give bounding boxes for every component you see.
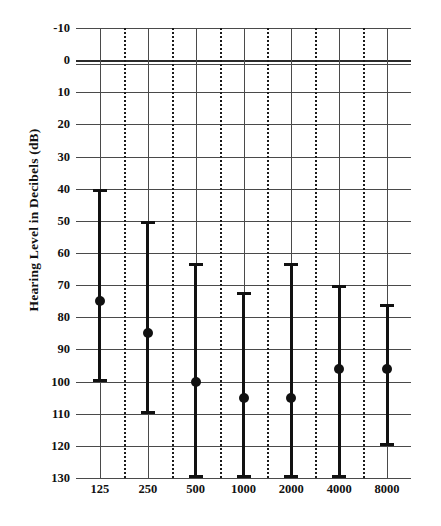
- y-tick-label-10: 10: [24, 85, 70, 100]
- x-tick-label-8000: 8000: [352, 482, 422, 497]
- whisker-cap-lower: [93, 379, 107, 382]
- marker-dot: [191, 377, 201, 387]
- whisker-line: [338, 285, 341, 478]
- y-tick-label-40: 40: [24, 181, 70, 196]
- minor-gridline-3: [267, 28, 269, 478]
- whisker-cap-lower: [332, 475, 346, 478]
- y-tick-label-130: 130: [24, 471, 70, 486]
- y-tick-label-0: 0: [24, 53, 70, 68]
- audiogram-chart: Hearing Level in Decibels (dB) -10010203…: [0, 0, 441, 526]
- whisker-cap-upper: [141, 221, 155, 224]
- y-tick-label-60: 60: [24, 246, 70, 261]
- whisker-cap-upper: [380, 304, 394, 307]
- y-axis-tick-labels: -100102030405060708090100110120130: [18, 28, 70, 478]
- whisker-line: [98, 189, 101, 382]
- whisker-cap-lower: [380, 443, 394, 446]
- whisker-line: [290, 263, 293, 478]
- whisker-line: [146, 221, 149, 414]
- page-bleed-artifact: [120, 512, 340, 522]
- whisker-cap-upper: [332, 285, 346, 288]
- y-tick-label-100: 100: [24, 374, 70, 389]
- minor-gridline-2: [220, 28, 222, 478]
- marker-dot: [239, 393, 249, 403]
- whisker-line: [194, 263, 197, 478]
- minor-gridline-0: [124, 28, 126, 478]
- marker-dot: [286, 393, 296, 403]
- whisker-line: [386, 304, 389, 445]
- y-tick-label-80: 80: [24, 310, 70, 325]
- marker-dot: [382, 364, 392, 374]
- y-tick-label-120: 120: [24, 438, 70, 453]
- y-tick-label-110: 110: [24, 406, 70, 421]
- minor-gridline-4: [315, 28, 317, 478]
- marker-dot: [95, 296, 105, 306]
- whisker-cap-upper: [237, 292, 251, 295]
- minor-gridline-1: [172, 28, 174, 478]
- plot-area: [76, 28, 411, 478]
- gridline-130db: [76, 478, 411, 479]
- y-tick-label-20: 20: [24, 117, 70, 132]
- whisker-line: [242, 292, 245, 478]
- whisker-cap-lower: [141, 411, 155, 414]
- whisker-cap-upper: [93, 189, 107, 192]
- marker-dot: [334, 364, 344, 374]
- y-tick-label-70: 70: [24, 278, 70, 293]
- y-tick-label-30: 30: [24, 149, 70, 164]
- whisker-cap-upper: [189, 263, 203, 266]
- x-axis-tick-labels: 1252505001000200040008000: [76, 482, 411, 504]
- whisker-cap-lower: [284, 475, 298, 478]
- whisker-cap-lower: [237, 475, 251, 478]
- y-tick-label-90: 90: [24, 342, 70, 357]
- minor-gridline-5: [363, 28, 365, 478]
- marker-dot: [143, 328, 153, 338]
- whisker-cap-lower: [189, 475, 203, 478]
- whisker-cap-upper: [284, 263, 298, 266]
- y-tick-label-50: 50: [24, 213, 70, 228]
- y-tick-label--10: -10: [24, 21, 70, 36]
